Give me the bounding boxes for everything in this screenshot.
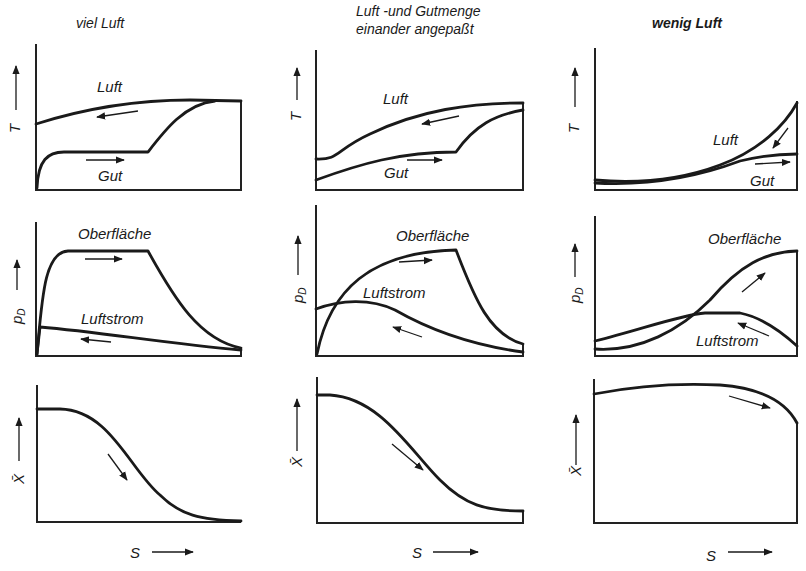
curve-label-luftstrom: Luftstrom (696, 332, 759, 349)
svg-text:S: S (412, 544, 422, 561)
panel-moisture-angepasst (317, 377, 523, 523)
panel-temperature-viel-luft: Luft Gut (36, 44, 241, 190)
y-axis-label-temperature: T T T (6, 66, 582, 133)
curve-label-oberflaeche: Oberfläche (396, 227, 469, 244)
curve-label-luft: Luft (713, 131, 739, 148)
svg-text:X̄: X̄ (10, 473, 27, 485)
y-axis-label-moisture: X̄ X̄ X̄ (10, 399, 584, 485)
column-title-angepasst-line1: Luft -und Gutmenge (356, 3, 481, 19)
curve-label-luftstrom: Luftstrom (81, 310, 144, 327)
curve-label-gut: Gut (750, 172, 775, 189)
curve-label-luft: Luft (97, 78, 123, 95)
column-title-viel-luft: viel Luft (76, 15, 125, 31)
svg-text:T: T (565, 122, 582, 133)
curve-label-luft: Luft (383, 90, 409, 107)
column-title-angepasst-line2: einander angepaßt (356, 21, 475, 37)
curve-label-gut: Gut (384, 164, 409, 181)
panel-moisture-wenig-luft (594, 379, 797, 523)
column-title-wenig-luft: wenig Luft (652, 15, 723, 31)
svg-text:X̄: X̄ (288, 456, 305, 468)
svg-text:T: T (287, 110, 304, 121)
panel-moisture-viel-luft (37, 385, 241, 522)
panel-temperature-angepasst: Luft Gut (316, 50, 523, 190)
panel-vapor-pressure-wenig-luft: Oberfläche Luftstrom (595, 216, 797, 356)
curve-label-oberflaeche: Oberfläche (78, 225, 151, 242)
panel-vapor-pressure-angepasst: Oberfläche Luftstrom (316, 205, 523, 356)
svg-text:S: S (130, 544, 140, 561)
svg-text:S: S (706, 547, 716, 564)
curve-label-luftstrom: Luftstrom (363, 284, 426, 301)
svg-text:T: T (6, 122, 23, 133)
svg-text:pD: pD (566, 287, 585, 304)
drying-profiles-figure: viel Luft Luft -und Gutmenge einander an… (0, 0, 806, 571)
svg-text:pD: pD (289, 287, 308, 304)
svg-text:X̄: X̄ (567, 465, 584, 477)
panel-vapor-pressure-viel-luft: Oberfläche Luftstrom (36, 222, 241, 356)
x-axis-label-s: S S S (130, 544, 772, 564)
curve-label-gut: Gut (98, 167, 123, 184)
svg-text:pD: pD (8, 308, 27, 325)
curve-label-oberflaeche: Oberfläche (708, 230, 781, 247)
panel-temperature-wenig-luft: Luft Gut (595, 48, 797, 190)
